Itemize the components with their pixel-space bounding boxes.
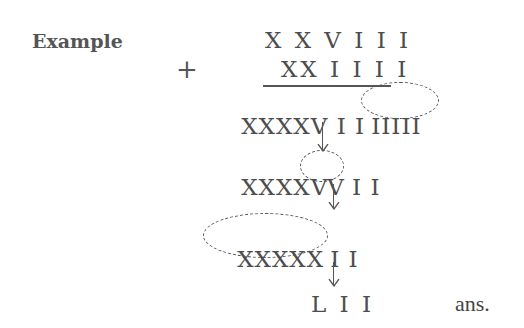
step-2-row: XXXXVVI I <box>212 153 380 222</box>
answer-label: ans. <box>455 293 490 315</box>
down-arrow-icon <box>328 184 340 210</box>
addend-2: XX I I I I <box>281 58 409 81</box>
raw-sum-prefix: XXXXV I I <box>241 113 365 139</box>
down-arrow-icon <box>317 122 329 152</box>
dashed-circle-xxxxx <box>203 213 328 258</box>
dashed-circle-iiiii <box>361 82 439 119</box>
plus-operator: + <box>176 56 198 82</box>
down-arrow-icon <box>328 262 340 287</box>
addend-1: X X V I I I <box>265 29 411 52</box>
step-2-suffix: I I <box>352 174 380 200</box>
dashed-circle-vv <box>300 150 344 182</box>
example-heading: Example <box>32 32 123 51</box>
result-row: L I I <box>311 293 374 316</box>
step-2-prefix: XXXX <box>241 174 311 200</box>
